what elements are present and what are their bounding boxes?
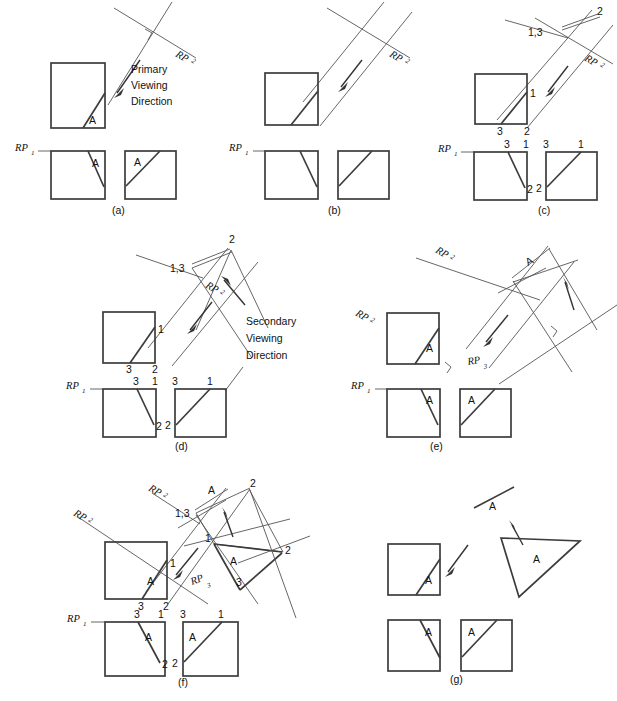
panel-g-caption: (g)	[450, 673, 463, 685]
panel-e-rp2-label-left: RP	[353, 307, 371, 324]
panel-f-vertex-3-side: 3	[180, 608, 186, 620]
panel-d-secondary-arrow	[224, 280, 245, 305]
panel-f-side-A: A	[189, 631, 196, 643]
panel-f-proj-aux-long	[196, 515, 258, 604]
panel-f-rp1-label: RP	[66, 613, 80, 624]
panel-g-arrow-to-edge-head	[509, 520, 516, 533]
panel-f-vertex-2-upper: 2	[250, 477, 256, 489]
panel-e-aux-line-c	[549, 249, 597, 330]
panel-e-side-view-edge	[461, 389, 495, 425]
panel-c-vertex-13-top: 1,3	[528, 26, 543, 38]
panel-g-front-view-square	[388, 620, 440, 671]
panel-c-rp1-label: RP	[437, 143, 451, 154]
panel-d-vertex-1-side: 1	[207, 375, 213, 387]
panel-d-front-view-edge	[137, 389, 154, 425]
panel-c-ray-13-to-2a	[562, 14, 598, 27]
panel-c-projector-1	[497, 10, 592, 120]
panel-g-side-A: A	[468, 626, 475, 638]
panel-b-rp2-label: RP	[387, 48, 405, 65]
panel-f-vertex-1-front: 1	[158, 608, 164, 620]
panel-d-viewing-arrowhead	[187, 324, 197, 334]
panel-d-rp1-sub: 1	[82, 387, 86, 395]
panel-f-vertex-13: 1,3	[175, 507, 190, 519]
panel-f-vertex-1-aux: 1	[205, 532, 211, 544]
panel-c-caption: (c)	[538, 204, 550, 216]
panel-e-rp3-perpendicular-mark	[551, 326, 557, 337]
panel-a-side-view-square	[125, 151, 176, 199]
panel-c-vertex-2-side: 2	[536, 182, 542, 194]
panel-d-vertex-2-front: 2	[156, 420, 162, 432]
panel-d-vertex-3-top: 3	[126, 363, 132, 375]
panel-a-rp2-sub: 2	[190, 57, 198, 66]
panel-c-front-view-edge	[508, 152, 525, 188]
panel-a-note-line-2: Viewing	[131, 79, 168, 91]
panel-a-rp1-sub: 1	[31, 149, 35, 157]
panel-d-rp2-label: RP	[203, 279, 221, 296]
panel-a-top-view-square	[51, 63, 105, 128]
panel-c-vertex-2-top-b: 2	[524, 125, 530, 137]
panel-f-rp3-sub: 3	[205, 581, 212, 590]
panel-e-rp1-sub: 1	[367, 387, 371, 395]
panel-d-side-view-square	[175, 389, 226, 437]
panel-a-top-surface-label: A	[89, 114, 96, 126]
panel-c-ray-13-to-2b	[562, 17, 600, 30]
panel-d-rp2-sub: 2	[219, 288, 227, 297]
panel-b-side-view-edge	[339, 151, 372, 186]
panel-e-secondary-arrowhead	[563, 277, 569, 290]
panel-f-vertex-2-top: 2	[163, 600, 169, 612]
panel-e-side-surface-label: A	[468, 394, 475, 406]
panel-b-side-view-square	[338, 151, 389, 199]
panel-b-top-view-square	[265, 73, 318, 125]
panel-d-vertex-2-side: 2	[165, 419, 171, 431]
panel-a-note-line-3: Direction	[131, 95, 173, 107]
panel-e-caption: (e)	[430, 440, 443, 452]
panel-f-aux-A-upper: A	[208, 484, 215, 496]
panel-e-projector-1	[466, 246, 548, 349]
panel-g-true-size-triangle	[501, 538, 580, 597]
panel-f-secondary-arrow	[224, 512, 233, 537]
panel-b-top-view-edge	[291, 91, 318, 125]
panel-c-vertex-1-side: 1	[578, 138, 584, 150]
panel-d-note-leader	[225, 367, 243, 391]
panel-f-aux-A: A	[230, 555, 237, 567]
panel-d-vertex-3-side: 3	[172, 375, 178, 387]
panel-b-front-view-edge	[300, 151, 317, 187]
panel-a-side-surface-label: A	[134, 156, 141, 168]
panel-c-projector-2	[527, 25, 613, 128]
panel-d: 2 1,3 RP 2 Secondary Viewing Direction 1…	[65, 233, 297, 452]
panel-f-secondary-arrowhead	[222, 507, 228, 520]
panel-c-vertex-1-front: 1	[523, 138, 529, 150]
panel-e: RP 2 A RP 2 RP 3 A RP 1 A A (e)	[350, 244, 617, 452]
panel-d-viewing-arrow	[190, 302, 212, 330]
panel-b: RP 2 RP 1 (b)	[228, 2, 412, 216]
panel-b-viewing-arrow	[341, 60, 362, 87]
panel-a-rp2-label: RP	[173, 48, 191, 65]
panel-d-vertex-13-aux: 1,3	[170, 262, 185, 274]
panel-a-side-view-edge	[126, 151, 160, 186]
panel-f-caption: (f)	[178, 676, 188, 688]
panel-c: 2 1,3 RP 2 1 3 2 RP 1 3 1 2 3 1 2 (c)	[437, 5, 613, 216]
panel-c-viewing-arrow	[548, 66, 568, 92]
panel-f-vertex-2-side: 2	[172, 657, 178, 669]
panel-a-note-line-1: Primary	[131, 63, 168, 75]
panel-e-rp2-sub-upper: 2	[449, 253, 457, 262]
panel-f-rp3-label: RP	[188, 572, 205, 587]
panel-f-vertex-1-top: 1	[170, 557, 176, 569]
panel-e-aux-line-e	[498, 268, 546, 293]
panel-d-vertex-2-top: 2	[152, 363, 158, 375]
panel-e-rp2-perpendicular-mark	[445, 362, 451, 373]
panel-d-note-line-2: Viewing	[246, 332, 283, 344]
panel-d-vertex-2-aux: 2	[229, 233, 235, 245]
panel-f-vertex-3-front: 3	[134, 608, 140, 620]
panel-c-top-view-edge	[501, 92, 527, 124]
panel-e-front-surface-label: A	[426, 394, 433, 406]
panel-d-side-view-edge	[176, 389, 210, 425]
panel-a-front-surface-label: A	[92, 157, 99, 169]
panel-e-rp3-line	[499, 305, 617, 384]
panel-f-front-A: A	[145, 631, 152, 643]
panel-f-vertex-2-front: 2	[162, 658, 168, 670]
panel-c-rp2-sub: 2	[599, 61, 607, 70]
panel-f-rp2-sub-upper: 2	[162, 491, 170, 500]
panel-e-rp3-sub: 3	[482, 363, 488, 372]
panel-g-edge-view-A: A	[489, 500, 496, 512]
